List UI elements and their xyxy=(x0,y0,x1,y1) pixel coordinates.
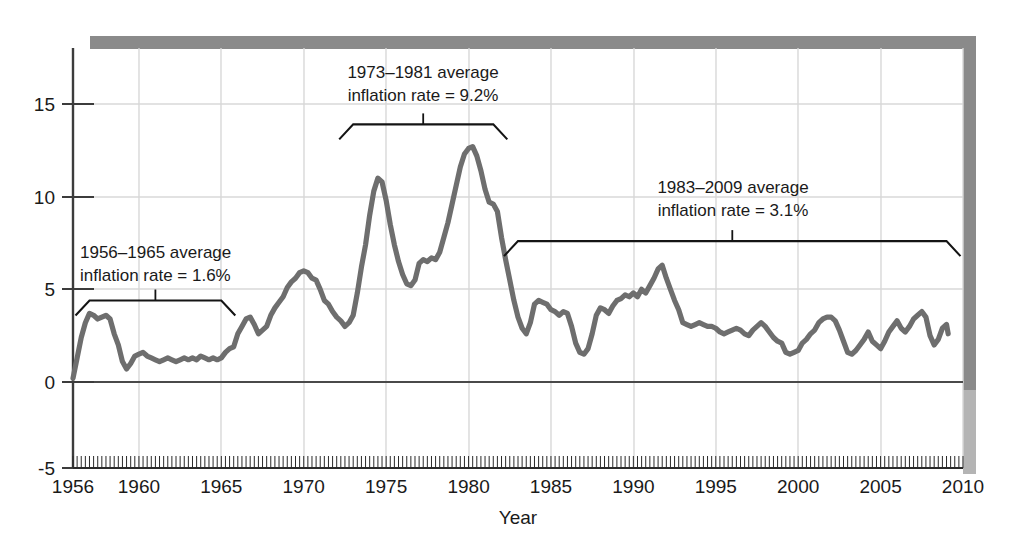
x-tick-label: 1960 xyxy=(118,476,160,497)
x-axis-title: Year xyxy=(499,507,538,528)
inflation-rate-line xyxy=(73,147,948,379)
annot-1973-1981: 1973–1981 average inflation rate = 9.2% xyxy=(347,63,498,105)
annot-1956-1965: 1956–1965 average inflation rate = 1.6% xyxy=(80,243,231,285)
y-axis-ticks xyxy=(62,104,94,468)
annot-1956-1965-line2: inflation rate = 1.6% xyxy=(80,266,231,285)
x-tick-label: 1995 xyxy=(695,476,737,497)
inflation-rate-chart-figure: 15 10 5 0 -5 195619601965197019751980198… xyxy=(0,0,1018,559)
x-tick-label: 1956 xyxy=(52,476,94,497)
x-axis-tick-labels: 1956196019651970197519801985199019952000… xyxy=(52,476,984,497)
y-tick-label: 0 xyxy=(44,372,55,393)
annot-1983-2009-line2: inflation rate = 3.1% xyxy=(658,201,809,220)
x-tick-label: 2000 xyxy=(777,476,819,497)
x-tick-label: 1980 xyxy=(447,476,489,497)
annot-1973-1981-line1: 1973–1981 average xyxy=(347,63,498,82)
annot-1973-1981-bracket xyxy=(339,124,507,139)
x-tick-label: 1985 xyxy=(530,476,572,497)
y-tick-label: 5 xyxy=(44,279,55,300)
annot-1983-2009-line1: 1983–2009 average xyxy=(657,178,808,197)
annotation-brackets xyxy=(76,113,961,315)
vertical-gridlines xyxy=(139,48,963,468)
x-tick-label: 1990 xyxy=(612,476,654,497)
x-tick-label: 1970 xyxy=(283,476,325,497)
x-tick-label: 1975 xyxy=(365,476,407,497)
x-tick-label: 1965 xyxy=(200,476,242,497)
y-tick-label: 10 xyxy=(34,187,55,208)
x-tick-label: 2005 xyxy=(859,476,901,497)
x-tick-label: 2010 xyxy=(942,476,984,497)
annot-1973-1981-line2: inflation rate = 9.2% xyxy=(348,86,499,105)
annot-1983-2009: 1983–2009 average inflation rate = 3.1% xyxy=(657,178,808,220)
annot-1956-1965-bracket xyxy=(76,301,236,316)
annot-1983-2009-bracket xyxy=(504,241,961,256)
chart-canvas: 15 10 5 0 -5 195619601965197019751980198… xyxy=(0,0,1018,559)
x-axis-minor-ticks xyxy=(73,456,963,468)
y-tick-label: 15 xyxy=(34,94,55,115)
annot-1956-1965-line1: 1956–1965 average xyxy=(80,243,231,262)
y-axis-tick-labels: 15 10 5 0 -5 xyxy=(34,94,55,479)
